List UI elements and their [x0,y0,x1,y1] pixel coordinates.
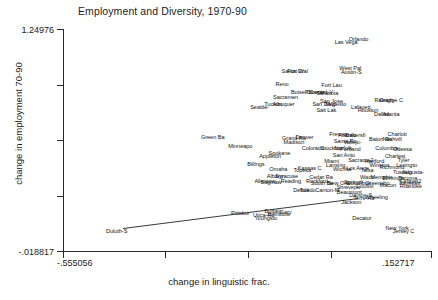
x-axis-tick [331,252,332,258]
y-axis-max-label: 1.24976 [21,25,54,35]
data-point-label: Minneapo [228,144,252,150]
plot-area: OrlandoLas VegaWest PalAustin-SSanta CrF… [63,29,432,251]
data-point-label: Duluth-S [106,229,127,235]
data-point-label: Albuquer [273,102,295,108]
data-point-label: Appleton [259,154,281,160]
data-point-label: Sarasota [316,91,338,97]
chart-title: Employment and Diversity, 1970-90 [78,5,247,17]
data-point-label: Jackson [341,200,361,206]
data-point-label: Orange C [379,99,403,105]
x-axis-tick [431,252,432,258]
x-axis-title: change in linguistic frac. [0,276,438,287]
x-axis-tick [248,252,249,258]
data-point-label: Fort Wal [287,69,308,75]
x-axis-tick [165,252,166,258]
data-point-label: Reading [281,179,302,185]
data-point-label: Toledo [299,188,315,194]
data-point-label: Salt Lak [316,108,336,114]
data-point-label: Las Vega [335,40,358,46]
data-point-label: Austin-S [341,70,362,76]
data-point-label: Billings [247,162,264,168]
data-point-label: Nashvill [382,137,401,143]
data-point-label: Pittsbur [231,211,250,217]
data-point-label: Wheeling [365,196,388,202]
data-point-label: Green Ba [201,135,225,141]
data-point-label: Macon [380,183,397,189]
data-point-label: Jersey C [393,229,415,235]
data-point-label: Saginaw [260,180,281,186]
x-axis-max-label: .152717 [382,258,415,268]
data-point-label: Seattle- [250,105,269,111]
data-point-label: Reno [275,82,288,88]
data-point-label: Odessa [393,148,412,154]
data-point-label: Roanoke [400,184,422,190]
y-axis-min-label: -.018817 [18,247,54,257]
data-point-label: Youngsto [254,216,277,222]
data-point-label: Atlanta [382,113,399,119]
data-point-label: Omaha [269,167,287,173]
data-point-label: Decatur [352,216,371,222]
chart-root: Employment and Diversity, 1970-90 1.2497… [0,0,438,300]
x-axis-min-label: -.555056 [57,258,93,268]
y-axis-title: change in employment 70-90 [13,24,24,224]
